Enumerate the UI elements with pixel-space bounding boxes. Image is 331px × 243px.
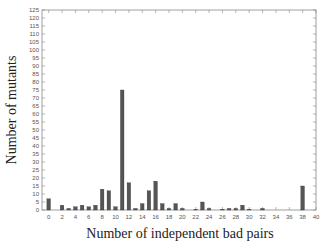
y-tick-label: 65: [32, 103, 39, 109]
bar: [234, 208, 238, 210]
x-tick-label: 22: [192, 214, 199, 220]
bar: [80, 205, 84, 210]
x-tick-label: 8: [100, 214, 104, 220]
bar: [120, 90, 124, 210]
bar: [194, 209, 198, 210]
bar: [94, 205, 98, 210]
y-tick-label: 45: [32, 135, 39, 141]
y-tick-label: 95: [32, 55, 39, 61]
bar: [221, 209, 225, 210]
x-axis-ticks: 0246810121416182022242628303234363840: [47, 10, 320, 220]
x-tick-label: 18: [166, 214, 173, 220]
bar: [47, 199, 51, 210]
y-tick-label: 85: [32, 71, 39, 77]
bar: [140, 204, 144, 210]
x-tick-label: 26: [219, 214, 226, 220]
y-tick-label: 100: [29, 47, 40, 53]
bar: [174, 204, 178, 210]
bar: [301, 186, 305, 210]
y-tick-label: 35: [32, 151, 39, 157]
x-tick-label: 28: [232, 214, 239, 220]
y-tick-label: 30: [32, 159, 39, 165]
y-tick-label: 75: [32, 87, 39, 93]
x-tick-label: 24: [206, 214, 213, 220]
y-axis-ticks: 0510152025303540455055606570758085909510…: [29, 7, 316, 213]
x-tick-label: 30: [246, 214, 253, 220]
bar: [67, 208, 71, 210]
x-tick-label: 4: [74, 214, 78, 220]
x-axis-label: Number of independent bad pairs: [86, 226, 273, 241]
bar: [100, 189, 104, 210]
x-tick-label: 10: [112, 214, 119, 220]
y-tick-label: 80: [32, 79, 39, 85]
bar: [134, 208, 138, 210]
bar: [227, 208, 231, 210]
bar: [261, 208, 265, 210]
y-tick-label: 15: [32, 183, 39, 189]
y-tick-label: 105: [29, 39, 40, 45]
bar: [181, 208, 185, 210]
plot-area-border: [42, 10, 316, 210]
y-tick-label: 60: [32, 111, 39, 117]
y-tick-label: 70: [32, 95, 39, 101]
plot-frame: [42, 10, 316, 210]
bar: [127, 183, 131, 210]
y-tick-label: 20: [32, 175, 39, 181]
y-tick-label: 125: [29, 7, 40, 13]
x-tick-label: 0: [47, 214, 51, 220]
y-tick-label: 40: [32, 143, 39, 149]
x-tick-label: 12: [126, 214, 133, 220]
bar: [107, 191, 111, 210]
bar: [167, 208, 171, 210]
bar: [74, 207, 78, 210]
x-tick-label: 38: [299, 214, 306, 220]
bar: [60, 205, 64, 210]
x-tick-label: 2: [60, 214, 64, 220]
y-tick-label: 5: [36, 199, 40, 205]
y-tick-label: 10: [32, 191, 39, 197]
bar: [154, 181, 158, 210]
bar: [207, 208, 211, 210]
bar: [147, 191, 151, 210]
bars: [47, 90, 305, 210]
y-tick-label: 25: [32, 167, 39, 173]
y-tick-label: 120: [29, 15, 40, 21]
y-axis-label: Number of mutants: [4, 56, 19, 165]
bar: [247, 209, 251, 210]
bar: [201, 202, 205, 210]
x-tick-label: 20: [179, 214, 186, 220]
y-tick-label: 0: [36, 207, 40, 213]
bar-chart: 0510152025303540455055606570758085909510…: [0, 0, 331, 243]
y-tick-label: 90: [32, 63, 39, 69]
y-tick-label: 115: [29, 23, 39, 29]
x-tick-label: 16: [152, 214, 159, 220]
y-tick-label: 110: [29, 31, 39, 37]
bar: [160, 204, 164, 210]
x-tick-label: 14: [139, 214, 146, 220]
bar: [87, 207, 91, 210]
bar: [114, 207, 118, 210]
x-tick-label: 40: [313, 214, 320, 220]
x-tick-label: 6: [87, 214, 91, 220]
y-tick-label: 50: [32, 127, 39, 133]
x-tick-label: 36: [286, 214, 293, 220]
y-tick-label: 55: [32, 119, 39, 125]
x-tick-label: 32: [259, 214, 266, 220]
x-tick-label: 34: [273, 214, 280, 220]
bar: [241, 205, 245, 210]
